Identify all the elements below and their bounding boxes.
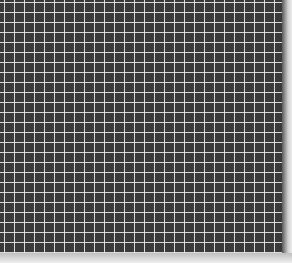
photo-right-edge [282,0,292,263]
grid-photo: Photograph of a dark grid with thin whit… [0,0,292,263]
photo-bottom-edge [0,253,292,263]
grid-pattern [0,0,284,253]
